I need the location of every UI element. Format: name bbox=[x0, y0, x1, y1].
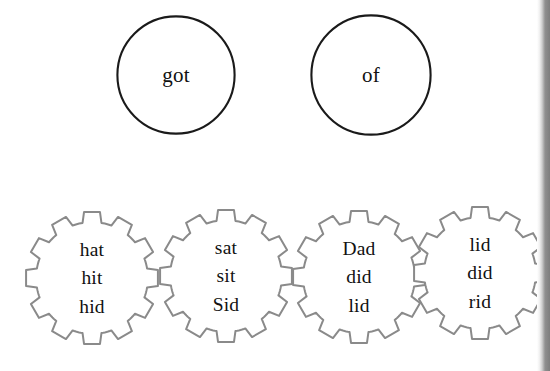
word-gear: satsitSid bbox=[158, 208, 294, 344]
worksheet-page: gotofhathithidsatsitSidDaddidlidliddidri… bbox=[0, 0, 550, 371]
word-circle: got bbox=[116, 15, 236, 135]
gear-outline-icon bbox=[291, 209, 427, 345]
circle-outline-icon bbox=[116, 15, 236, 135]
circle-outline-icon bbox=[310, 14, 432, 136]
word-gear: Daddidlid bbox=[291, 209, 427, 345]
word-gear: hathithid bbox=[24, 210, 160, 346]
word-circle: of bbox=[310, 14, 432, 136]
page-edge-shadow bbox=[537, 0, 550, 371]
gear-outline-icon bbox=[158, 208, 294, 344]
gear-outline-icon bbox=[24, 210, 160, 346]
gear-outline-icon bbox=[412, 205, 548, 341]
word-gear: liddidrid bbox=[412, 205, 548, 341]
